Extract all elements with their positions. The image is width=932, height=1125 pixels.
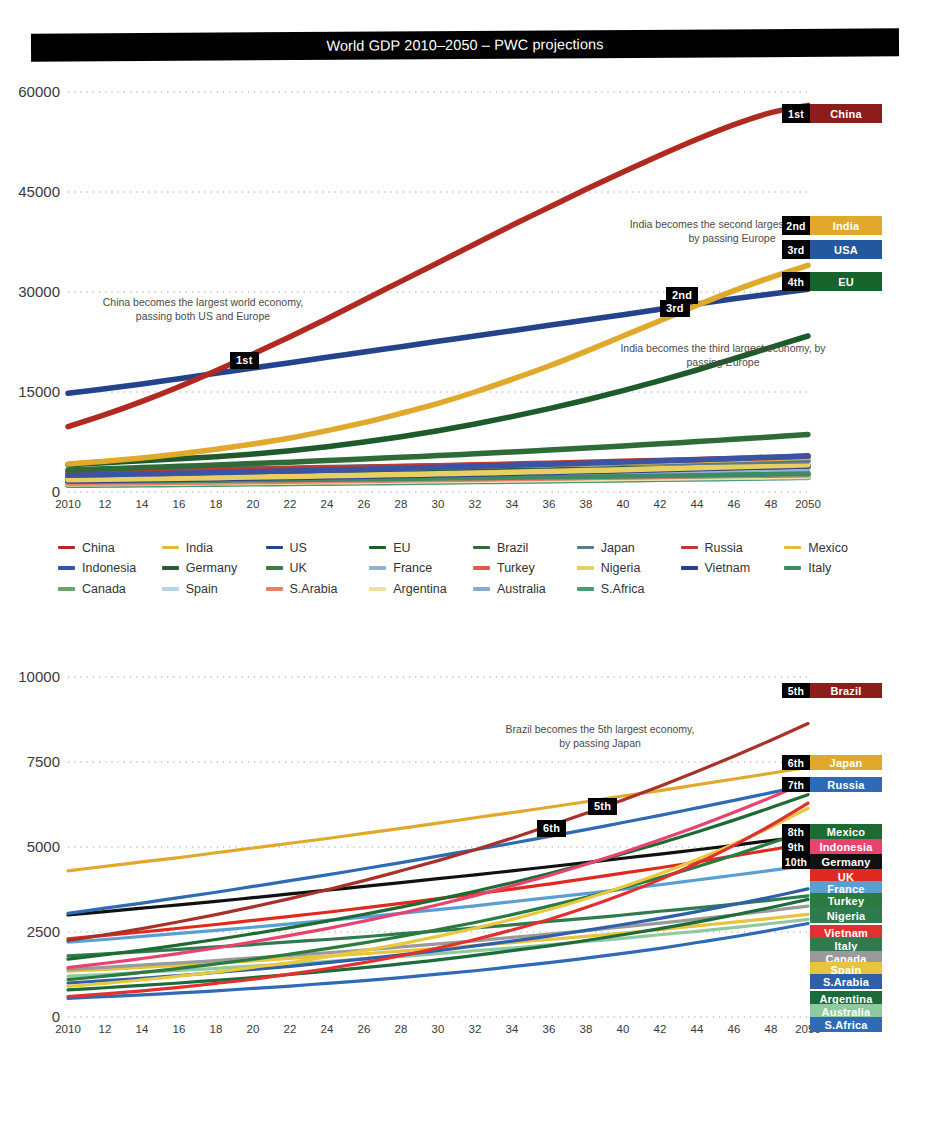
legend-label: US xyxy=(290,541,307,555)
legend-item-spain[interactable]: Spain xyxy=(162,579,266,598)
rank-marker-6th: 6th xyxy=(537,820,566,837)
legend-item-india[interactable]: India xyxy=(162,538,266,557)
end-label-name: Germany xyxy=(810,854,882,869)
legend-item-germany[interactable]: Germany xyxy=(162,559,266,578)
x-axis-tick-label: 34 xyxy=(492,498,532,510)
y-axis-tick-label: 60000 xyxy=(2,83,60,100)
legend-swatch xyxy=(58,566,75,570)
legend-item-france[interactable]: France xyxy=(369,559,473,578)
x-axis-tick-label: 44 xyxy=(677,498,717,510)
legend-swatch xyxy=(681,546,698,550)
x-axis-tick-label: 18 xyxy=(196,498,236,510)
end-label-rank: 1st xyxy=(782,104,810,123)
end-label-name: India xyxy=(810,216,882,235)
legend-label: Russia xyxy=(705,541,743,555)
end-label-rank: 3rd xyxy=(782,240,810,259)
x-axis-tick-label: 26 xyxy=(344,1023,384,1035)
legend-label: Brazil xyxy=(497,541,528,555)
end-label-name: Russia xyxy=(810,777,882,792)
x-axis-tick-label: 2050 xyxy=(788,498,828,510)
x-axis-tick-label: 34 xyxy=(492,1023,532,1035)
x-axis-tick-label: 28 xyxy=(381,498,421,510)
legend-item-russia[interactable]: Russia xyxy=(681,538,785,557)
legend-swatch xyxy=(162,546,179,550)
x-axis-tick-label: 36 xyxy=(529,1023,569,1035)
end-label-russia: 7thRussia xyxy=(782,777,882,792)
x-axis-tick-label: 40 xyxy=(603,1023,643,1035)
legend-swatch xyxy=(266,587,283,591)
legend-swatch xyxy=(681,566,698,570)
legend-item-eu[interactable]: EU xyxy=(369,538,473,557)
x-axis-tick-label: 42 xyxy=(640,498,680,510)
end-label-name: EU xyxy=(810,272,882,291)
legend-swatch xyxy=(58,587,75,591)
end-label-china: 1stChina xyxy=(782,104,882,123)
end-label-name: Nigeria xyxy=(810,908,882,923)
x-axis-tick-label: 46 xyxy=(714,498,754,510)
legend-item-australia[interactable]: Australia xyxy=(473,579,577,598)
legend-item-us[interactable]: US xyxy=(266,538,370,557)
end-label-mexico: 8thMexico xyxy=(782,824,882,839)
end-label-indonesia: 9thIndonesia xyxy=(782,839,882,854)
x-axis-tick-label: 16 xyxy=(159,498,199,510)
legend-swatch xyxy=(784,546,801,550)
x-axis-tick-label: 28 xyxy=(381,1023,421,1035)
page-title: World GDP 2010–2050 – PWC projections xyxy=(326,36,603,54)
y-axis-tick-label: 15000 xyxy=(2,383,60,400)
end-label-name: USA xyxy=(810,240,882,259)
end-label-name: Turkey xyxy=(810,893,882,908)
legend-label: Vietnam xyxy=(705,561,751,575)
chart-title-banner: World GDP 2010–2050 – PWC projections xyxy=(31,28,899,61)
legend-swatch xyxy=(577,587,594,591)
legend-swatch xyxy=(577,566,594,570)
end-label-rank: 10th xyxy=(782,854,810,869)
y-axis-tick-label: 30000 xyxy=(2,283,60,300)
legend-item-argentina[interactable]: Argentina xyxy=(369,579,473,598)
legend-label: Nigeria xyxy=(601,561,641,575)
end-label-rank: 8th xyxy=(782,824,810,839)
legend-item-turkey[interactable]: Turkey xyxy=(473,559,577,578)
legend-item-nigeria[interactable]: Nigeria xyxy=(577,559,681,578)
bottom-chart: 0250050007500100002010121416182022242628… xyxy=(0,655,932,1065)
y-axis-tick-label: 7500 xyxy=(2,753,60,770)
legend-item-canada[interactable]: Canada xyxy=(58,579,162,598)
infographic-page: World GDP 2010–2050 – PWC projections 01… xyxy=(0,0,932,1125)
legend-item-s-arabia[interactable]: S.Arabia xyxy=(266,579,370,598)
x-axis-tick-label: 30 xyxy=(418,498,458,510)
legend-label: S.Arabia xyxy=(290,582,338,596)
end-label-rank: 6th xyxy=(782,755,810,770)
legend-swatch xyxy=(58,546,75,550)
legend-item-vietnam[interactable]: Vietnam xyxy=(681,559,785,578)
legend-item-indonesia[interactable]: Indonesia xyxy=(58,559,162,578)
end-label-name: S.Arabia xyxy=(810,974,882,989)
y-axis-tick-label: 2500 xyxy=(2,923,60,940)
x-axis-tick-label: 32 xyxy=(455,1023,495,1035)
legend-swatch xyxy=(577,546,594,550)
legend-swatch xyxy=(473,546,490,550)
legend-label: Turkey xyxy=(497,561,535,575)
legend-item-uk[interactable]: UK xyxy=(266,559,370,578)
legend-label: Mexico xyxy=(808,541,848,555)
x-axis-tick-label: 2010 xyxy=(48,498,88,510)
x-axis-tick-label: 14 xyxy=(122,1023,162,1035)
legend-item-brazil[interactable]: Brazil xyxy=(473,538,577,557)
end-label-germany: 10thGermany xyxy=(782,854,882,869)
legend-item-mexico[interactable]: Mexico xyxy=(784,538,888,557)
end-label-nigeria: Nigeria xyxy=(810,908,882,923)
rank-marker-3rd: 3rd xyxy=(660,300,690,317)
legend-swatch xyxy=(473,587,490,591)
x-axis-tick-label: 2010 xyxy=(48,1023,88,1035)
rank-marker-1st: 1st xyxy=(230,352,259,369)
y-axis-tick-label: 5000 xyxy=(2,838,60,855)
legend-swatch xyxy=(784,566,801,570)
x-axis-tick-label: 20 xyxy=(233,498,273,510)
x-axis-tick-label: 26 xyxy=(344,498,384,510)
legend-swatch xyxy=(266,566,283,570)
legend-item-japan[interactable]: Japan xyxy=(577,538,681,557)
x-axis-tick-label: 12 xyxy=(85,1023,125,1035)
legend-item-china[interactable]: China xyxy=(58,538,162,557)
x-axis-tick-label: 38 xyxy=(566,1023,606,1035)
legend-item-s-africa[interactable]: S.Africa xyxy=(577,579,681,598)
legend-item-italy[interactable]: Italy xyxy=(784,559,888,578)
end-label-rank: 7th xyxy=(782,777,810,792)
